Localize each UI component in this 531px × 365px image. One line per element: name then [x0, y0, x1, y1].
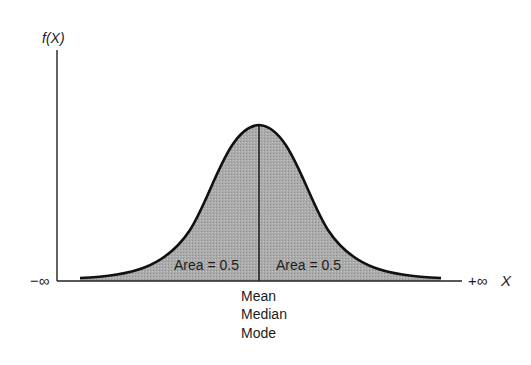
shaded-area — [80, 125, 441, 281]
x-right-infinity-label: +∞ — [468, 272, 487, 289]
right-area-label: Area = 0.5 — [276, 257, 341, 274]
left-area-label: Area = 0.5 — [174, 257, 239, 274]
mean-label: Mean — [241, 288, 276, 305]
mode-label: Mode — [241, 325, 276, 342]
y-axis-label: f(X) — [42, 30, 65, 47]
x-left-infinity-label: −∞ — [30, 272, 49, 289]
median-label: Median — [241, 306, 287, 323]
x-axis-label: X — [501, 272, 511, 289]
